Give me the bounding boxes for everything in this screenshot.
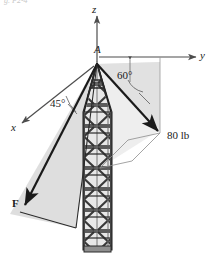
force-label-80lb: 80 lb <box>167 130 189 141</box>
axis-label-y: y <box>200 50 205 61</box>
axis-label-z: z <box>92 4 96 15</box>
point-label-A: A <box>94 44 101 55</box>
force-label-F: F <box>12 198 19 209</box>
figure-caption-fragment: g. P2-4 <box>4 0 28 5</box>
tower-base <box>84 246 111 252</box>
angle-label-60: 60° <box>117 70 132 81</box>
angle-label-45: 45° <box>50 98 65 109</box>
statics-figure: g. P2-4 z y x A 60° 45° 80 lb F <box>0 0 215 263</box>
axis-label-x: x <box>11 122 16 133</box>
